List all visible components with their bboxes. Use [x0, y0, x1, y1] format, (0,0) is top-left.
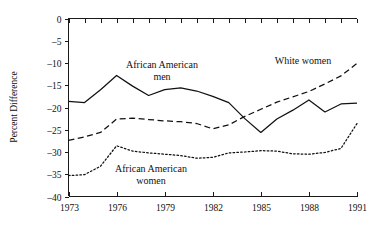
y-tick-label: –25 [46, 126, 62, 136]
x-tick-label: 1979 [156, 203, 175, 213]
series-label-african-american-men-line2: men [153, 71, 170, 82]
y-tick-label: 0 [57, 15, 62, 25]
x-axis-tick-labels: 1973197619791982198519881991 [60, 203, 367, 213]
series-label-white-women: White women [275, 55, 331, 66]
y-tick-label: –35 [46, 170, 62, 180]
y-tick-label: –15 [46, 81, 62, 91]
zero-axis-ticks [70, 19, 358, 23]
x-tick-label: 1973 [60, 203, 79, 213]
y-tick-label: –10 [46, 59, 62, 69]
x-tick-label: 1988 [300, 203, 319, 213]
x-tick-label: 1976 [108, 203, 127, 213]
x-axis-ticks [70, 192, 358, 197]
series-line-african-american-men [69, 75, 358, 132]
chart-canvas: Percent Difference 0–5–10–15–20–25–30–35… [0, 0, 380, 230]
series-label-african-american-women-line1: African American [115, 163, 187, 174]
series-label-african-american-women-line2: women [136, 175, 165, 186]
y-tick-label: –20 [46, 104, 62, 114]
y-axis-ticks [65, 20, 69, 198]
series-label-african-american-men-line1: African American [126, 59, 198, 70]
y-axis-tick-labels: 0–5–10–15–20–25–30–35–40 [46, 15, 62, 203]
y-tick-label: –30 [46, 148, 62, 158]
y-tick-label: –40 [46, 193, 62, 203]
series-lines [69, 63, 358, 175]
y-axis-title: Percent Difference [9, 71, 19, 142]
y-tick-label: –5 [51, 37, 62, 47]
chart-figure: Percent Difference 0–5–10–15–20–25–30–35… [0, 0, 380, 230]
x-tick-label: 1991 [348, 203, 367, 213]
x-tick-label: 1985 [252, 203, 271, 213]
series-line-african-american-women [69, 124, 358, 176]
x-tick-label: 1982 [204, 203, 223, 213]
series-line-white-women [69, 63, 358, 140]
